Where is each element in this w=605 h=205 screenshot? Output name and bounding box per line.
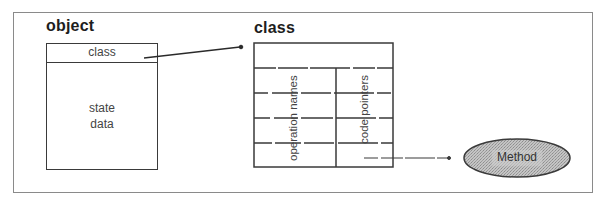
method-label: Method	[463, 150, 571, 164]
class-table	[254, 43, 393, 167]
diagram-graphics	[0, 0, 605, 205]
pointer-arrow-to-class	[144, 45, 243, 58]
pointer-arrow-to-method	[364, 157, 451, 160]
operation-names-label: operation names	[287, 75, 299, 161]
code-pointers-label: code pointers	[358, 75, 370, 144]
